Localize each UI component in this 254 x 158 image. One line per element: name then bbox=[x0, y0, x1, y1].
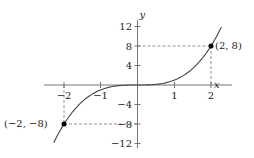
x-tick-label: −1 bbox=[93, 90, 108, 101]
y-tick-label: −8 bbox=[117, 119, 132, 130]
x-tick-label: 2 bbox=[208, 90, 214, 101]
point-m2-m8 bbox=[62, 122, 67, 127]
x-axis-label: x bbox=[214, 79, 220, 90]
y-tick-label: 12 bbox=[119, 21, 132, 32]
point-2-8 bbox=[209, 44, 214, 49]
point-label-m2-m8: (−2, −8) bbox=[4, 118, 48, 129]
y-tick-label: 4 bbox=[126, 60, 132, 71]
y-tick-label: −4 bbox=[117, 99, 132, 110]
y-tick-label: −12 bbox=[111, 138, 132, 149]
cubic-function-chart: x y (2, 8) (−2, −8) −2 −1 1 2 12 8 4 −4 … bbox=[0, 0, 254, 158]
y-axis-label: y bbox=[139, 9, 146, 20]
point-label-2-8: (2, 8) bbox=[215, 40, 242, 51]
y-tick-label: 8 bbox=[126, 41, 132, 52]
x-tick-label: −2 bbox=[57, 90, 72, 101]
axes bbox=[44, 20, 232, 148]
x-tick-label: 1 bbox=[171, 90, 177, 101]
